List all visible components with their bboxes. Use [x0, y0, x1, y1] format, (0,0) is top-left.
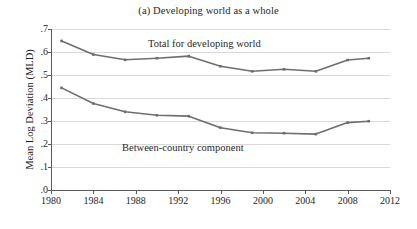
- x-tick-mark: [136, 191, 137, 194]
- data-point-marker: [251, 131, 254, 134]
- x-tick-label: 1980: [31, 195, 71, 206]
- data-point-marker: [124, 111, 127, 114]
- series-label-total: Total for developing world: [148, 38, 261, 49]
- x-tick-label: 2004: [285, 195, 325, 206]
- data-point-marker: [368, 120, 371, 123]
- x-tick-mark: [390, 191, 391, 194]
- y-tick-mark: [48, 121, 51, 122]
- x-tick-mark: [348, 191, 349, 194]
- data-point-marker: [283, 68, 286, 71]
- y-tick-mark: [48, 52, 51, 53]
- data-point-marker: [92, 53, 95, 56]
- x-tick-label: 1988: [116, 195, 156, 206]
- data-point-marker: [368, 57, 371, 60]
- x-tick-label: 2008: [328, 195, 368, 206]
- x-tick-mark: [263, 191, 264, 194]
- x-tick-mark: [51, 191, 52, 194]
- data-point-marker: [124, 59, 127, 62]
- series-line-between-country: [62, 88, 369, 134]
- x-tick-label: 2012: [370, 195, 410, 206]
- data-point-marker: [92, 102, 95, 105]
- y-tick-mark: [48, 98, 51, 99]
- data-point-marker: [251, 70, 254, 73]
- x-tick-mark: [221, 191, 222, 194]
- y-tick-mark: [48, 167, 51, 168]
- data-point-marker: [156, 114, 159, 117]
- y-tick-mark: [48, 75, 51, 76]
- data-point-marker: [315, 70, 318, 73]
- data-point-marker: [60, 40, 63, 43]
- data-point-marker: [187, 115, 190, 118]
- x-tick-label: 2000: [243, 195, 283, 206]
- data-point-marker: [60, 87, 63, 90]
- data-point-marker: [156, 57, 159, 60]
- data-point-marker: [283, 132, 286, 135]
- x-tick-mark: [93, 191, 94, 194]
- y-tick-mark: [48, 29, 51, 30]
- x-tick-mark: [178, 191, 179, 194]
- x-tick-label: 1992: [158, 195, 198, 206]
- data-point-marker: [219, 126, 222, 129]
- data-point-marker: [187, 55, 190, 58]
- y-tick-mark: [48, 144, 51, 145]
- data-point-marker: [219, 65, 222, 68]
- chart-figure: (a) Developing world as a whole Mean Log…: [0, 0, 417, 229]
- x-tick-label: 1996: [201, 195, 241, 206]
- data-point-marker: [346, 121, 349, 124]
- series-label-between-country: Between-country component: [122, 142, 244, 153]
- x-tick-label: 1984: [73, 195, 113, 206]
- data-point-marker: [346, 59, 349, 62]
- x-tick-mark: [305, 191, 306, 194]
- data-point-marker: [315, 133, 318, 136]
